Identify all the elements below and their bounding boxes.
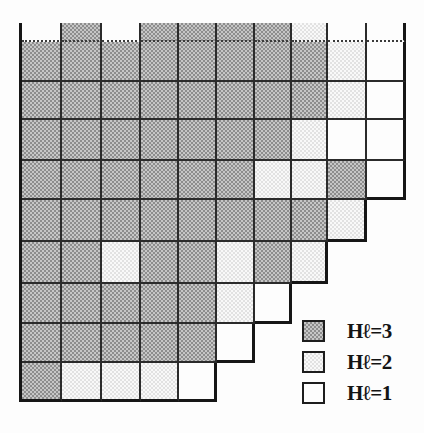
- grid-row: [19, 42, 406, 82]
- grid-cell: [179, 242, 217, 284]
- grid-cell: [141, 161, 179, 200]
- grid-cell: [179, 23, 217, 42]
- grid-cell: [62, 363, 102, 402]
- grid-cell: [292, 161, 328, 200]
- grid-cell: [217, 324, 255, 363]
- grid-cell: [255, 23, 292, 42]
- legend-label-hl3: Hℓ=3: [347, 320, 392, 342]
- grid-row: [19, 120, 406, 161]
- grid-cell: [62, 284, 102, 324]
- legend-swatch-hl3: [302, 320, 325, 342]
- legend-swatch-hl1: [302, 382, 325, 404]
- grid-cell: [328, 120, 367, 161]
- legend-label-hl2: Hℓ=2: [347, 351, 392, 373]
- grid-cell: [102, 161, 141, 200]
- grid-cell: [102, 200, 141, 242]
- grid-cell: [22, 161, 62, 200]
- grid-cell: [179, 82, 217, 120]
- grid-cell: [141, 200, 179, 242]
- grid-cell: [22, 242, 62, 284]
- grid-cell: [102, 42, 141, 82]
- grid-cell: [141, 42, 179, 82]
- grid-row: [19, 363, 217, 402]
- grid-cell: [292, 200, 328, 242]
- grid-cell: [217, 284, 255, 324]
- grid-cell: [141, 324, 179, 363]
- legend-label-hl1: Hℓ=1: [347, 382, 392, 404]
- grid-cell: [22, 363, 62, 402]
- legend-item-hl3: Hℓ=3: [302, 320, 392, 342]
- grid-cell: [102, 120, 141, 161]
- grid-row: [19, 200, 367, 242]
- grid-cell: [141, 82, 179, 120]
- grid-cell: [22, 200, 62, 242]
- grid-cell: [141, 242, 179, 284]
- grid-cell: [22, 42, 62, 82]
- grid-cell: [22, 284, 62, 324]
- grid-cell: [22, 120, 62, 161]
- grid-cell: [255, 82, 292, 120]
- legend-swatch-hl2: [302, 351, 325, 373]
- grid-cell: [179, 161, 217, 200]
- grid-cell: [292, 42, 328, 82]
- grid-cell: [328, 161, 367, 200]
- grid-cell: [292, 82, 328, 120]
- grid-cell: [22, 23, 62, 42]
- grid-cell: [367, 161, 406, 200]
- grid-row: [19, 242, 328, 284]
- grid-cell: [367, 120, 406, 161]
- grid-cell: [292, 242, 328, 284]
- grid-cell: [141, 23, 179, 42]
- grid-cell: [62, 324, 102, 363]
- grid-cell: [141, 120, 179, 161]
- grid-cell: [217, 200, 255, 242]
- grid-row: [19, 23, 406, 42]
- grid-cell: [102, 242, 141, 284]
- grid-cell: [328, 42, 367, 82]
- grid-cell: [255, 242, 292, 284]
- grid-cell: [328, 200, 367, 242]
- legend-item-hl2: Hℓ=2: [302, 351, 392, 373]
- grid-cell: [217, 242, 255, 284]
- grid-cell: [179, 200, 217, 242]
- grid-cell: [328, 82, 367, 120]
- grid-cell: [22, 324, 62, 363]
- grid-cell: [102, 324, 141, 363]
- grid-cell: [62, 120, 102, 161]
- grid-cell: [179, 324, 217, 363]
- grid-cell: [217, 82, 255, 120]
- grid-cell: [179, 42, 217, 82]
- grid-cell: [292, 23, 328, 42]
- grid-cell: [255, 284, 292, 324]
- grid-cell: [141, 363, 179, 402]
- grid-cell: [179, 284, 217, 324]
- grid-cell: [367, 42, 406, 82]
- grid-cell: [179, 120, 217, 161]
- grid-cell: [102, 363, 141, 402]
- grid-cell: [62, 42, 102, 82]
- grid-cell: [62, 200, 102, 242]
- grid-cell: [22, 82, 62, 120]
- grid-cell: [217, 161, 255, 200]
- grid-row: [19, 284, 292, 324]
- grid-cell: [62, 23, 102, 42]
- grid-cell: [102, 23, 141, 42]
- legend: Hℓ=3 Hℓ=2 Hℓ=1: [302, 320, 392, 413]
- legend-item-hl1: Hℓ=1: [302, 382, 392, 404]
- grid-cell: [102, 284, 141, 324]
- grid-cell: [62, 161, 102, 200]
- grid-cell: [255, 161, 292, 200]
- grid-cell: [255, 200, 292, 242]
- figure-canvas: Hℓ=3 Hℓ=2 Hℓ=1: [0, 0, 424, 433]
- grid-cell: [328, 23, 367, 42]
- grid-cell: [255, 120, 292, 161]
- grid-cell: [217, 42, 255, 82]
- grid-cell: [367, 23, 406, 42]
- grid-row: [19, 82, 406, 120]
- grid-cell: [102, 82, 141, 120]
- grid-cell: [367, 82, 406, 120]
- grid-cell: [255, 42, 292, 82]
- grid-cell: [141, 284, 179, 324]
- grid-cell: [179, 363, 217, 402]
- grid-cell: [62, 242, 102, 284]
